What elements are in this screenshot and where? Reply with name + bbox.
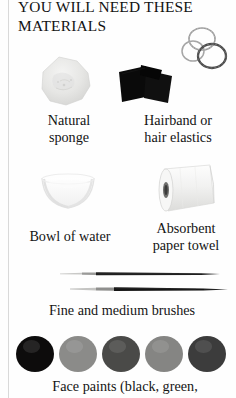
paint-dot-black bbox=[16, 336, 54, 372]
natural-sponge-photo bbox=[38, 55, 94, 107]
page-gutter-rule bbox=[8, 0, 9, 398]
paint-dot-green bbox=[59, 336, 97, 372]
caption-hairband: Hairband or hair elastics bbox=[122, 112, 234, 146]
paper-towel-roll-photo bbox=[150, 163, 222, 215]
paint-dot-dark bbox=[102, 336, 140, 372]
caption-line: Hairband or bbox=[122, 112, 234, 129]
paint-dot-gray bbox=[145, 336, 183, 372]
paint-brushes-photo bbox=[52, 266, 232, 300]
hair-elastic-rings-photo bbox=[176, 26, 234, 76]
caption-natural-sponge: Natural sponge bbox=[20, 112, 118, 146]
caption-line: Fine and medium brushes bbox=[14, 302, 230, 319]
caption-line: hair elastics bbox=[122, 129, 234, 146]
caption-line: Bowl of water bbox=[10, 228, 130, 245]
caption-line: Absorbent bbox=[138, 220, 234, 237]
caption-bowl-of-water: Bowl of water bbox=[10, 228, 130, 245]
materials-page: YOU WILL NEED THESE MATERIALS bbox=[0, 0, 236, 398]
caption-line: Natural bbox=[20, 112, 118, 129]
paint-dot-deep bbox=[188, 336, 226, 372]
caption-brushes: Fine and medium brushes bbox=[14, 302, 230, 319]
caption-line: paper towel bbox=[138, 237, 234, 254]
caption-paper-towel: Absorbent paper towel bbox=[138, 220, 234, 254]
caption-line: sponge bbox=[20, 129, 118, 146]
face-paint-dots-photo bbox=[16, 336, 228, 374]
caption-line: Face paints (black, green, bbox=[14, 378, 236, 395]
bowl-of-water-photo bbox=[34, 168, 102, 216]
caption-face-paints: Face paints (black, green, bbox=[14, 378, 236, 395]
